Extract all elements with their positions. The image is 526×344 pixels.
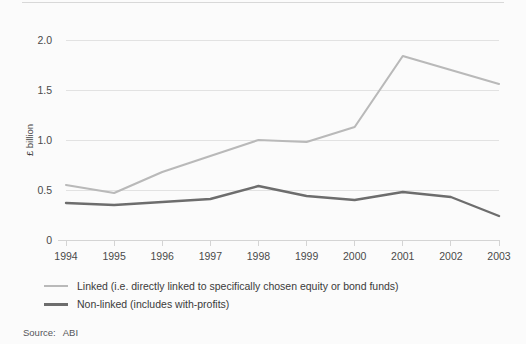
y-tick-label: 1.0 [37, 134, 52, 146]
x-tick-label: 1995 [102, 250, 126, 262]
legend-label-nonlinked: Non-linked (includes with-profits) [77, 298, 229, 311]
legend-line-swatch-nonlinked [44, 303, 68, 306]
source-note: Source:ABI [23, 327, 78, 338]
legend-line-swatch-linked [44, 285, 68, 287]
legend-item-nonlinked: Non-linked (includes with-profits) [44, 296, 504, 312]
y-tick-label: 2.0 [37, 34, 52, 46]
y-axis-tick-labels-group: 00.51.01.52.0 [37, 34, 52, 246]
x-axis-tick-labels-group: 1994199519961997199819992000200120022003 [54, 250, 511, 262]
legend-label-linked: Linked (i.e. directly linked to specific… [77, 280, 399, 293]
y-axis-title: £ billion [24, 124, 35, 156]
x-tick-label: 2000 [343, 250, 367, 262]
y-tick-label: 0 [46, 234, 52, 246]
y-tick-label: 1.5 [37, 84, 52, 96]
x-tick-label: 1997 [199, 250, 223, 262]
data-series-group [66, 56, 499, 216]
y-tick-label: 0.5 [37, 184, 52, 196]
chart-legend: Linked (i.e. directly linked to specific… [44, 278, 504, 314]
source-value: ABI [63, 327, 78, 338]
x-tick-label: 2002 [439, 250, 463, 262]
x-tick-label: 2001 [391, 250, 415, 262]
x-tick-label: 1996 [151, 250, 175, 262]
x-tick-label: 1998 [247, 250, 271, 262]
x-tick-label: 1999 [295, 250, 319, 262]
chart-page: 00.51.01.52.0 19941995199619971998199920… [0, 0, 526, 344]
series-line-linked [66, 56, 499, 193]
x-tick-label: 1994 [54, 250, 78, 262]
x-tick-label: 2003 [487, 250, 511, 262]
source-label: Source: [23, 327, 56, 338]
x-tick-marks-group [66, 240, 499, 246]
legend-item-linked: Linked (i.e. directly linked to specific… [44, 278, 504, 294]
